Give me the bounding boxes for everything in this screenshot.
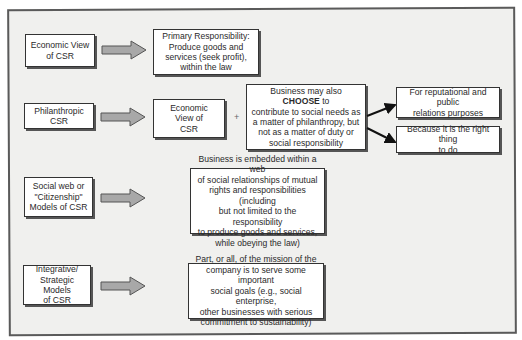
reason-line: Because it is the right thing <box>401 124 495 145</box>
reason-box-right-thing: Because it is the right thing to do <box>396 126 500 153</box>
model-line: Philanthropic <box>34 106 84 116</box>
choose-emphasis: CHOOSE <box>283 96 320 106</box>
result-box-social-web: Business is embedded within a web of soc… <box>190 168 325 234</box>
result-line: of social relationships of mutual <box>195 175 320 185</box>
plus-sign: + <box>234 112 239 122</box>
model-box-philanthropic: PhilanthropicCSR <box>24 103 94 129</box>
result-line: while obeying the law) <box>195 238 320 248</box>
result-line: Business is embedded within a web <box>195 154 320 175</box>
model-line: Economic View <box>31 40 90 50</box>
result-line: social goals (e.g., social enterprise, <box>193 286 319 307</box>
result-line: services (seek profit), <box>162 52 249 62</box>
reason-box-reputation: For reputational and public relations pu… <box>396 87 500 118</box>
result-line: rights and responsibilities (including <box>195 185 320 206</box>
result-box-integrative: Part, or all, of the mission of the comp… <box>188 263 324 319</box>
model-line: of CSR <box>28 295 86 305</box>
model-box-integrative: Integrative/ Strategic Models of CSR <box>23 265 91 305</box>
model-line: Integrative/ <box>28 264 86 274</box>
model-box-social-web: Social web or "Citizenship" Models of CS… <box>24 177 93 217</box>
choice-line: social responsibility <box>251 138 361 148</box>
reason-line: to do <box>401 145 495 155</box>
result-line: company is to serve some important <box>193 265 319 286</box>
model-line: "Citizenship" <box>30 192 88 202</box>
result-box-economic: Primary Responsibility: Produce goods an… <box>153 29 259 75</box>
choice-box: Business may also CHOOSE to contribute t… <box>246 84 366 150</box>
base-line: CSR <box>170 124 208 134</box>
model-line: Social web or <box>30 181 88 191</box>
result-line: to produce goods and services, <box>195 227 320 237</box>
block-arrow-icon <box>100 276 146 296</box>
model-line: of CSR <box>31 51 90 61</box>
result-line: other businesses with serious <box>193 307 319 317</box>
result-line: Primary Responsibility: <box>162 31 249 41</box>
model-box-economic: Economic Viewof CSR <box>25 34 95 67</box>
result-line: Produce goods and <box>162 42 249 52</box>
choice-line: Business may also CHOOSE to <box>251 86 361 107</box>
choice-line: a matter of philanthropy, but <box>251 117 361 127</box>
result-line: within the law <box>162 62 249 72</box>
result-line: commitment to sustainability) <box>193 317 319 327</box>
reason-line: relations purposes <box>401 108 495 118</box>
result-line: but not limited to the responsibility <box>195 206 320 227</box>
base-box-economic-view: Economic View of CSR <box>153 99 225 138</box>
base-line: View of <box>170 113 208 123</box>
model-line: CSR <box>34 116 84 126</box>
base-line: Economic <box>170 103 208 113</box>
model-line: Strategic Models <box>28 275 86 296</box>
block-arrow-icon <box>100 188 146 208</box>
pointer-arrows-icon <box>365 95 399 155</box>
block-arrow-icon <box>101 40 147 60</box>
choice-line: contribute to social needs as <box>251 107 361 117</box>
model-line: Models of CSR <box>30 202 88 212</box>
choice-line: not as a matter of duty or <box>251 127 361 137</box>
block-arrow-icon <box>100 107 146 127</box>
reason-line: For reputational and public <box>401 87 495 108</box>
result-line: Part, or all, of the mission of the <box>193 254 319 264</box>
